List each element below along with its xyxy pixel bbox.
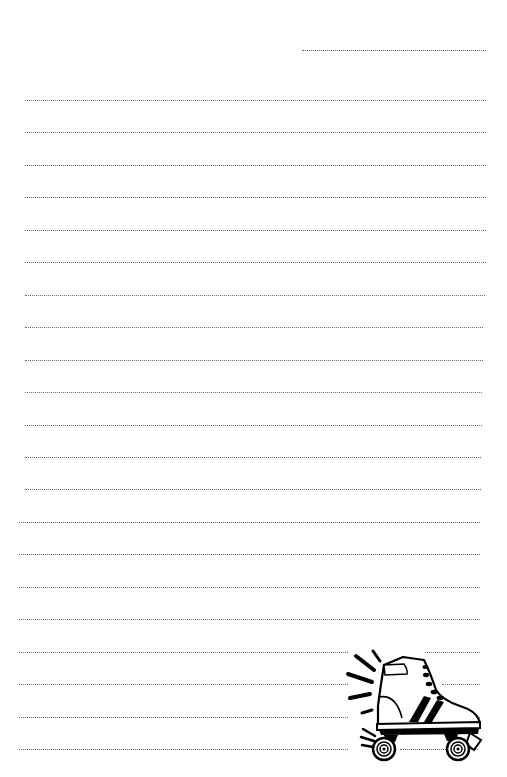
ruled-line	[19, 684, 348, 685]
date-line	[302, 50, 486, 51]
ruled-line	[25, 262, 486, 263]
ruled-line	[25, 100, 486, 101]
ruled-line	[19, 749, 348, 750]
ruled-line	[25, 165, 486, 166]
ruled-line	[25, 295, 485, 296]
ruled-line	[25, 132, 486, 133]
ruled-line	[19, 554, 480, 555]
ruled-line	[19, 619, 480, 620]
ruled-line	[25, 457, 481, 458]
ruled-line	[25, 197, 486, 198]
notepaper-page	[0, 0, 507, 777]
ruled-line	[25, 360, 483, 361]
ruled-line	[19, 587, 480, 588]
ruled-line	[25, 230, 486, 231]
ruled-line	[25, 392, 482, 393]
ruled-line	[25, 425, 482, 426]
ruled-line	[19, 652, 348, 653]
ruled-line	[25, 489, 481, 490]
roller-skate-icon	[345, 645, 485, 770]
ruled-line	[19, 522, 480, 523]
ruled-line	[25, 327, 483, 328]
ruled-line	[19, 717, 348, 718]
